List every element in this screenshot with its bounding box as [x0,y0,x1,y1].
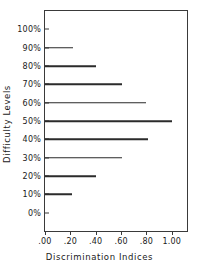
y-tick-mark [45,29,49,30]
y-tick-label: 100% [17,25,41,34]
x-tick-label: .00 [38,237,51,246]
x-tick-label: .80 [140,237,153,246]
x-tick-mark [121,231,122,235]
x-tick-label: .20 [64,237,77,246]
x-tick-mark [172,231,173,235]
bar [45,84,122,86]
bar [45,194,72,196]
y-tick-label: 80% [23,62,41,71]
bar [45,120,172,122]
y-tick-label: 40% [23,135,41,144]
x-tick-label: 1.00 [162,237,181,246]
x-axis-title: Discrimination Indices [0,252,199,262]
bar [45,139,148,141]
y-axis-title: Difficulty Levels [0,24,14,224]
x-tick-label: .60 [114,237,127,246]
x-tick-mark [96,231,97,235]
y-tick-label: 10% [23,190,41,199]
x-tick-mark [146,231,147,235]
y-tick-label: 60% [23,98,41,107]
y-tick-label: 70% [23,80,41,89]
x-tick-label: .40 [89,237,102,246]
bar [45,65,96,67]
y-tick-label: 20% [23,172,41,181]
x-tick-mark [45,231,46,235]
y-tick-label: 30% [23,153,41,162]
y-tick-label: 0% [28,208,41,217]
bar [45,175,96,177]
y-tick-label: 90% [23,43,41,52]
y-tick-label: 50% [23,117,41,126]
bar [45,102,146,104]
x-tick-mark [70,231,71,235]
bar [45,157,122,159]
y-tick-mark [45,212,49,213]
chart-container: Difficulty Levels 100%90%80%70%60%50%40%… [0,0,199,270]
bar [45,47,73,49]
plot-area: 100%90%80%70%60%50%40%30%20%10%0%.00.20.… [44,10,188,232]
